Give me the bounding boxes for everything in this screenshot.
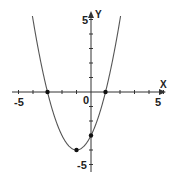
x-tick-label-max: 5 xyxy=(155,96,161,108)
parabola-curve xyxy=(32,16,120,150)
y-axis-label: Y xyxy=(95,9,102,20)
x-tick-label-origin: 0 xyxy=(83,94,89,106)
axes xyxy=(12,11,166,172)
data-point xyxy=(103,90,107,94)
parabola-chart: X Y -5 0 5 5 -5 xyxy=(0,0,178,179)
data-point xyxy=(89,133,93,137)
data-point xyxy=(74,148,78,152)
x-tick-label-min: -5 xyxy=(14,96,24,108)
parabola-path xyxy=(32,16,120,150)
x-axis-label: X xyxy=(160,79,167,90)
y-axis-arrow-icon xyxy=(88,11,94,18)
y-tick-label-min: -5 xyxy=(77,159,87,171)
data-point xyxy=(45,90,49,94)
y-tick-label-max: 5 xyxy=(82,14,88,26)
marked-points xyxy=(45,90,107,152)
